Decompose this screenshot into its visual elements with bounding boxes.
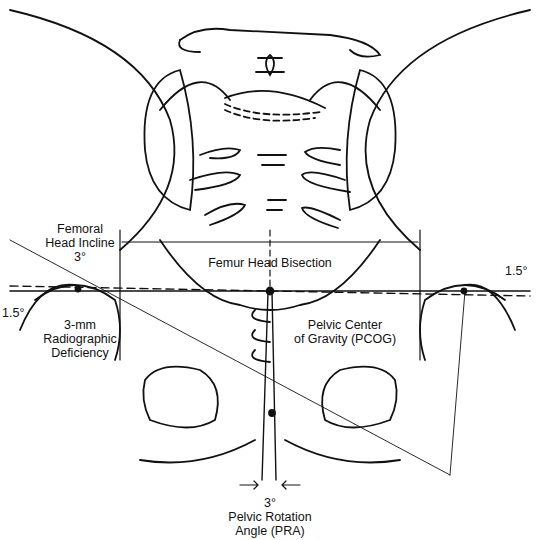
pelvis-diagram: Femoral Head Incline 3° Femur Head Bisec… xyxy=(0,0,540,540)
left-iliac-outline xyxy=(10,10,174,250)
label-line: of Gravity (PCOG) xyxy=(290,332,400,346)
label-line: Radiographic xyxy=(30,332,130,346)
label-line: Femoral xyxy=(30,222,130,236)
label-line: Deficiency xyxy=(30,346,130,360)
femoral-head-incline-label: Femoral Head Incline 3° xyxy=(30,222,130,264)
left-angle-label: 1.5° xyxy=(2,306,24,320)
label-value: 3° xyxy=(220,496,320,510)
femur-head-bisection-label: Femur Head Bisection xyxy=(190,256,350,270)
label-line: Head Incline xyxy=(30,236,130,250)
radiographic-deficiency-label: 3-mm Radiographic Deficiency xyxy=(30,318,130,360)
label-line: Pelvic Center xyxy=(290,318,400,332)
label-value: 3° xyxy=(30,250,130,264)
right-angle-label: 1.5° xyxy=(505,264,527,278)
label-line: Angle (PRA) xyxy=(220,524,320,538)
label-line: 3-mm xyxy=(30,318,130,332)
label-line: Pelvic Rotation xyxy=(220,510,320,524)
diagram-artwork xyxy=(0,0,540,540)
right-iliac-outline xyxy=(366,10,530,250)
pcog-label: Pelvic Center of Gravity (PCOG) xyxy=(290,318,400,346)
pra-label: 3° Pelvic Rotation Angle (PRA) xyxy=(220,496,320,538)
